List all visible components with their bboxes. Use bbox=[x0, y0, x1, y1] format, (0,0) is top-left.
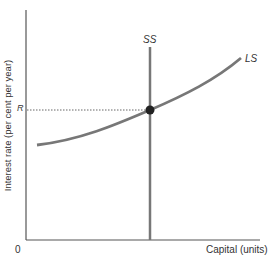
chart-canvas bbox=[0, 0, 272, 261]
origin-label: 0 bbox=[15, 244, 21, 255]
ls-label: LS bbox=[245, 53, 257, 64]
r-tick-label: R bbox=[17, 103, 24, 113]
x-axis-label: Capital (units) bbox=[206, 244, 268, 255]
y-axis-label-wrap: Interest rate (per cent per year) bbox=[0, 10, 16, 240]
ls-curve bbox=[37, 58, 241, 145]
ss-label: SS bbox=[143, 34, 156, 45]
equilibrium-point bbox=[146, 106, 155, 115]
capital-supply-diagram: Interest rate (per cent per year) R 0 SS… bbox=[0, 0, 272, 261]
y-axis-label: Interest rate (per cent per year) bbox=[3, 59, 14, 190]
